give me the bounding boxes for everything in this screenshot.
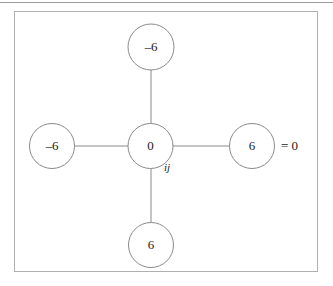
node-label-top: –6 [145, 39, 158, 55]
node-sublabel-ij: ij [164, 161, 170, 173]
node-label-bottom: 6 [148, 237, 154, 253]
node-label-right: 6 [249, 138, 255, 154]
equation-result-label: = 0 [281, 138, 298, 154]
node-label-left: –6 [46, 138, 59, 154]
node-label-center: 0 [147, 138, 153, 154]
